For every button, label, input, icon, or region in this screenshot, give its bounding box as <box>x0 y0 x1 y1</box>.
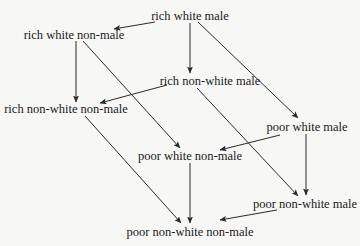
arrow-rwm-to-pwm <box>198 22 298 118</box>
lattice-diagram: rich white male rich white non-male rich… <box>0 0 360 246</box>
node-rich-white-non-male: rich white non-male <box>24 29 125 42</box>
node-poor-non-white-male: poor non-white male <box>253 198 357 211</box>
node-poor-white-male: poor white male <box>266 121 347 134</box>
node-poor-non-white-non-male: poor non-white non-male <box>126 226 253 239</box>
node-poor-white-non-male: poor white non-male <box>138 150 242 163</box>
arrow-rnwm-to-pnwm <box>197 88 298 196</box>
arrow-rnwm-to-rnwnm <box>100 85 167 103</box>
node-rich-non-white-non-male: rich non-white non-male <box>4 103 128 116</box>
node-rich-non-white-male: rich non-white male <box>160 75 261 88</box>
node-rich-white-male: rich white male <box>151 10 229 23</box>
arrow-pnwm-to-pnwnm <box>220 210 277 220</box>
arrow-rnwnm-to-pnwnm <box>85 116 181 223</box>
arrow-pwm-to-pwnm <box>220 135 280 150</box>
